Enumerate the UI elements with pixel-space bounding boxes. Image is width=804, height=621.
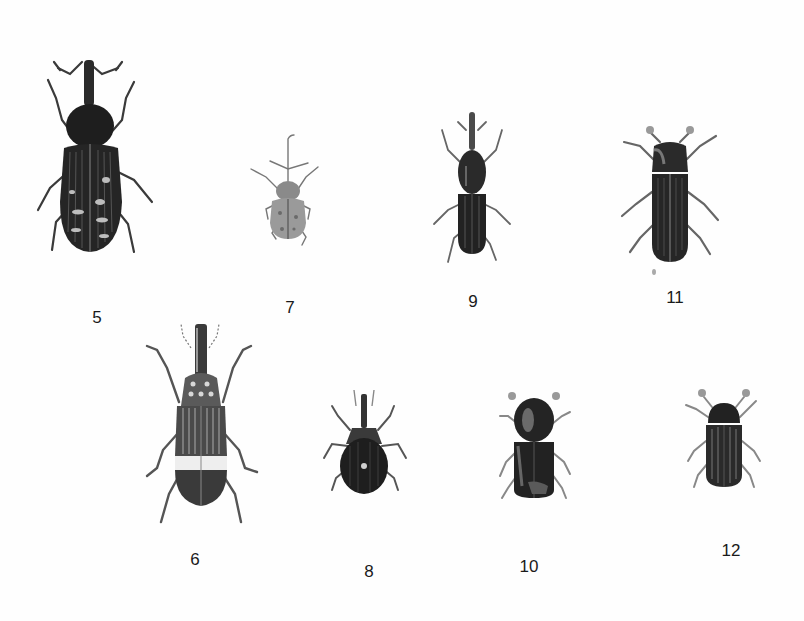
weevil-icon [430, 110, 515, 265]
specimen-number-8: 8 [364, 563, 373, 580]
beetle-10-illustration [494, 390, 574, 505]
weevil-icon [30, 52, 155, 262]
weevil-icon [145, 322, 260, 528]
specimen-number-9: 9 [468, 293, 477, 310]
beetle-5-illustration [30, 52, 155, 262]
specimen-number-6: 6 [190, 551, 199, 568]
beetle-7-illustration [248, 133, 323, 248]
weevil-icon [320, 386, 410, 501]
specimen-number-10: 10 [520, 558, 539, 575]
specimen-number-7: 7 [285, 299, 294, 316]
weevil-icon [248, 133, 323, 248]
beetle-8-illustration [320, 386, 410, 501]
bark-beetle-icon [684, 383, 764, 495]
specimen-plate: 5 7 [0, 0, 804, 621]
bark-beetle-icon [494, 390, 574, 505]
specimen-number-5: 5 [92, 309, 101, 326]
beetle-9-illustration [430, 110, 515, 265]
beetle-12-illustration [684, 383, 764, 495]
specimen-number-12: 12 [722, 542, 741, 559]
specimen-number-11: 11 [666, 289, 684, 306]
bark-beetle-icon [618, 120, 723, 275]
beetle-6-illustration [145, 322, 260, 528]
beetle-11-illustration [618, 120, 723, 275]
